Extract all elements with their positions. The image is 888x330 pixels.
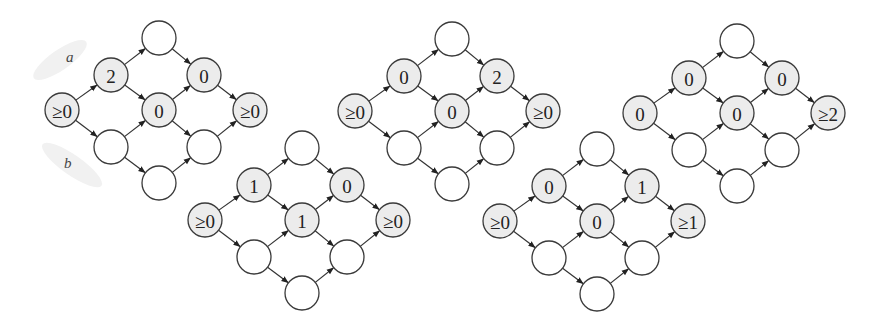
node-E: ≥1 xyxy=(671,204,705,238)
node-label: ≥0 xyxy=(195,211,215,232)
edge-S-U1 xyxy=(369,86,390,101)
edge-B-L2 xyxy=(610,269,628,283)
node-circle xyxy=(330,240,364,274)
node-T xyxy=(580,132,614,166)
node-label: ≥0 xyxy=(533,102,553,123)
node-label: 1 xyxy=(297,211,307,232)
edge-U2-E xyxy=(796,88,815,102)
edge-U1-T xyxy=(267,159,288,175)
edge-U2-E xyxy=(361,195,380,209)
node-B xyxy=(285,276,319,310)
node-label: 0 xyxy=(732,104,742,125)
node-B xyxy=(580,277,614,311)
edge-S-U1 xyxy=(514,196,535,211)
node-U2: 0 xyxy=(765,61,799,95)
node-E: ≥0 xyxy=(376,203,410,237)
node-circle xyxy=(480,131,514,165)
node-L1 xyxy=(94,130,128,164)
node-C: 0 xyxy=(142,93,176,127)
edge-L2-E xyxy=(795,124,814,139)
edge-U1-T xyxy=(417,50,438,66)
edge-C-U2 xyxy=(610,197,628,211)
node-circle xyxy=(765,133,799,167)
edge-L1-B xyxy=(418,158,438,173)
edge-T-U2 xyxy=(465,50,483,65)
node-E: ≥0 xyxy=(233,93,267,127)
edge-L2-E xyxy=(360,231,379,246)
node-circle xyxy=(94,130,128,164)
edge-S-U1 xyxy=(76,85,97,100)
node-label: 0 xyxy=(154,101,164,122)
node-circle xyxy=(142,166,176,200)
side-label-a: a xyxy=(66,49,74,65)
node-circle xyxy=(187,130,221,164)
edge-U1-C xyxy=(703,88,723,103)
edge-L1-C xyxy=(124,121,145,137)
node-C: 0 xyxy=(580,204,614,238)
edge-S-L1 xyxy=(219,230,240,246)
edge-C-U2 xyxy=(750,89,768,103)
node-label: ≥2 xyxy=(818,104,838,125)
node-L1 xyxy=(237,240,271,274)
node-U2: 0 xyxy=(187,58,221,92)
node-circle xyxy=(142,21,176,55)
node-label: 0 xyxy=(592,212,602,233)
edge-C-L2 xyxy=(750,124,768,139)
edge-U1-C xyxy=(125,85,145,100)
edge-L1-B xyxy=(268,267,288,282)
edge-B-L2 xyxy=(172,158,190,172)
node-label: 0 xyxy=(544,177,554,198)
edge-L1-B xyxy=(563,268,583,283)
smudge-upper xyxy=(28,33,92,86)
node-U1: 0 xyxy=(672,61,706,95)
edge-U2-E xyxy=(218,85,237,99)
edge-U2-E xyxy=(511,86,530,100)
node-L2 xyxy=(187,130,221,164)
node-circle xyxy=(580,132,614,166)
edge-U1-C xyxy=(563,196,583,211)
node-U2: 1 xyxy=(625,169,659,203)
graph-g2: ≥0110≥0 xyxy=(188,131,410,310)
node-U1: 2 xyxy=(94,58,128,92)
node-U1: 1 xyxy=(237,168,271,202)
node-L1 xyxy=(532,241,566,275)
node-S: ≥0 xyxy=(338,94,372,128)
node-label: 0 xyxy=(342,176,352,197)
edge-T-U2 xyxy=(172,49,190,64)
node-circle xyxy=(720,24,754,58)
graphs: ≥0200≥0≥0110≥0≥0002≥0≥0001≥10000≥2 xyxy=(45,21,845,311)
node-E: ≥2 xyxy=(811,96,845,130)
diagram-canvas: ab ≥0200≥0≥0110≥0≥0002≥0≥0001≥10000≥2 xyxy=(0,0,888,330)
edge-C-L2 xyxy=(172,121,190,136)
edge-C-U2 xyxy=(465,87,483,101)
edge-T-U2 xyxy=(750,52,768,67)
node-circle xyxy=(672,133,706,167)
edge-L1-B xyxy=(125,157,145,172)
node-label: 0 xyxy=(447,102,457,123)
node-U2: 0 xyxy=(330,168,364,202)
node-S: ≥0 xyxy=(188,203,222,237)
edge-L1-C xyxy=(417,122,438,138)
node-label: ≥0 xyxy=(345,102,365,123)
edge-B-L2 xyxy=(315,268,333,282)
node-L2 xyxy=(765,133,799,167)
node-label: ≥0 xyxy=(383,211,403,232)
node-E: ≥0 xyxy=(526,94,560,128)
node-circle xyxy=(237,240,271,274)
node-circle xyxy=(580,277,614,311)
edge-U1-T xyxy=(702,52,723,68)
node-label: ≥0 xyxy=(52,101,72,122)
node-S: ≥0 xyxy=(483,204,517,238)
node-U1: 0 xyxy=(532,169,566,203)
node-label: 0 xyxy=(399,67,409,88)
node-T xyxy=(142,21,176,55)
edge-U1-T xyxy=(562,160,583,176)
node-T xyxy=(285,131,319,165)
node-label: ≥0 xyxy=(240,101,260,122)
node-label: 2 xyxy=(106,66,116,87)
edge-S-U1 xyxy=(219,195,240,210)
node-C: 0 xyxy=(720,96,754,130)
edge-L1-B xyxy=(703,160,723,175)
node-U1: 0 xyxy=(387,59,421,93)
node-L2 xyxy=(480,131,514,165)
